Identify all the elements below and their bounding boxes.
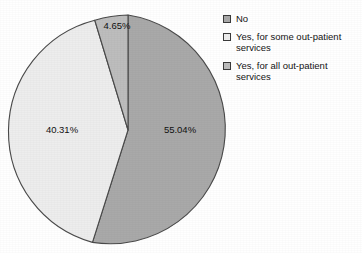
pie-label-yes-some: 40.31% [46, 124, 79, 135]
legend-item-yes-some[interactable]: Yes, for some out-patient services [223, 31, 359, 54]
legend-label-yes-all: Yes, for all out-patient services [236, 60, 328, 83]
pie-chart-figure: 55.04% 40.31% 4.65% No Yes, for some out… [0, 0, 362, 253]
legend-label-yes-some: Yes, for some out-patient services [236, 31, 341, 54]
legend-swatch-yes-all [223, 62, 231, 70]
pie-label-yes-all: 4.65% [104, 20, 131, 31]
pie-label-no: 55.04% [164, 124, 197, 135]
legend-swatch-no [223, 15, 231, 23]
legend-item-no[interactable]: No [223, 13, 359, 25]
legend-swatch-yes-some [223, 33, 231, 41]
legend-item-yes-all[interactable]: Yes, for all out-patient services [223, 60, 359, 83]
legend-label-no: No [236, 13, 248, 25]
chart-legend: No Yes, for some out-patient services Ye… [223, 13, 359, 89]
